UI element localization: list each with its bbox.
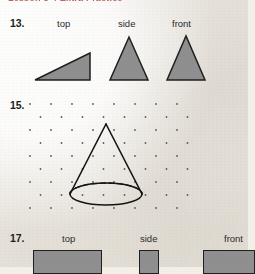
grid-dot	[71, 181, 73, 183]
grid-dot	[124, 142, 126, 144]
grid-dot	[82, 142, 84, 144]
grid-dot	[40, 116, 42, 118]
grid-dot	[166, 116, 168, 118]
grid-dot	[134, 103, 136, 105]
grid-dot	[134, 155, 136, 157]
grid-dot	[103, 116, 105, 118]
grid-dot	[50, 155, 52, 157]
grid-dot	[29, 129, 31, 131]
grid-dot	[176, 155, 178, 157]
grid-dot	[71, 103, 73, 105]
grid-dot	[187, 168, 189, 170]
grid-dot	[166, 142, 168, 144]
grid-dot	[50, 207, 52, 209]
grid-dot	[29, 155, 31, 157]
isometric-dot-grid	[29, 103, 188, 209]
grid-dot	[61, 194, 63, 196]
view-label-front-17: front	[224, 233, 243, 244]
grid-dot	[71, 129, 73, 131]
grid-dot	[124, 194, 126, 196]
grid-dot	[29, 103, 31, 105]
grid-dot	[71, 207, 73, 209]
grid-dot	[166, 168, 168, 170]
grid-dot	[40, 142, 42, 144]
grid-dot	[187, 194, 189, 196]
grid-dot	[124, 116, 126, 118]
cone-drawing	[70, 124, 142, 205]
grid-dot	[40, 168, 42, 170]
grid-dot	[176, 207, 178, 209]
grid-dot	[155, 181, 157, 183]
grid-dot	[92, 155, 94, 157]
grid-dot	[176, 181, 178, 183]
view-label-side-17: side	[140, 233, 157, 244]
grid-dot	[187, 142, 189, 144]
grid-dot	[82, 116, 84, 118]
grid-dot	[155, 129, 157, 131]
grid-dot	[155, 103, 157, 105]
grid-dot	[176, 129, 178, 131]
problem-15-figure	[0, 0, 248, 225]
rectangle-front-view	[203, 250, 255, 274]
grid-dot	[155, 207, 157, 209]
grid-dot	[145, 168, 147, 170]
grid-dot	[134, 207, 136, 209]
problem-number-17: 17.	[10, 232, 24, 244]
grid-dot	[113, 129, 115, 131]
grid-dot	[103, 194, 105, 196]
grid-dot	[92, 207, 94, 209]
grid-dot	[124, 168, 126, 170]
view-label-top-17: top	[62, 233, 75, 244]
grid-dot	[50, 103, 52, 105]
rectangle-top-view	[33, 250, 102, 274]
grid-dot	[50, 129, 52, 131]
grid-dot	[71, 155, 73, 157]
grid-dot	[92, 103, 94, 105]
grid-dot	[103, 168, 105, 170]
grid-dot	[61, 116, 63, 118]
grid-dot	[29, 181, 31, 183]
grid-dot	[145, 116, 147, 118]
grid-dot	[166, 194, 168, 196]
grid-dot	[92, 129, 94, 131]
grid-dot	[40, 194, 42, 196]
grid-dot	[113, 103, 115, 105]
grid-dot	[92, 181, 94, 183]
grid-dot	[113, 207, 115, 209]
grid-dot	[103, 142, 105, 144]
rectangle-side-view	[139, 250, 159, 274]
grid-dot	[82, 194, 84, 196]
grid-dot	[134, 129, 136, 131]
grid-dot	[50, 181, 52, 183]
grid-dot	[176, 103, 178, 105]
grid-dot	[145, 142, 147, 144]
grid-dot	[145, 194, 147, 196]
grid-dot	[29, 207, 31, 209]
grid-dot	[187, 116, 189, 118]
cone-hidden-back-edge	[70, 183, 142, 194]
grid-dot	[61, 142, 63, 144]
grid-dot	[113, 155, 115, 157]
grid-dot	[155, 155, 157, 157]
grid-dot	[61, 168, 63, 170]
